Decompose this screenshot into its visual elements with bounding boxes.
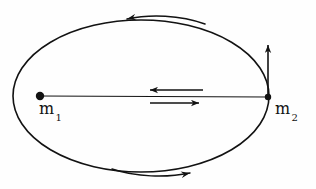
mass-label-m2-base: m — [275, 99, 290, 118]
mass-label-m2: m2 — [275, 99, 297, 120]
orbit-figure-canvas — [0, 0, 316, 189]
orbit-diagram: m1 m2 — [0, 0, 316, 189]
separation-line — [40, 96, 268, 97]
mass-label-m1-base: m — [39, 99, 54, 118]
mass-label-m2-subscript: 2 — [291, 112, 297, 123]
mass-label-m1: m1 — [39, 99, 61, 120]
m2-dot-marker — [265, 94, 271, 100]
mass-label-m1-subscript: 1 — [55, 112, 61, 123]
